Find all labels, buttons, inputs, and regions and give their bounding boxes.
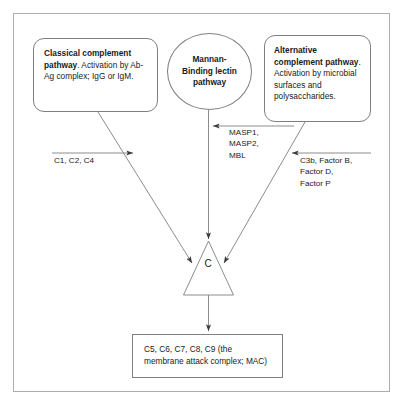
node-lectin-line1: Mannan-	[192, 54, 226, 64]
node-mac-text: C5, C6, C7, C8, C9 (the membrane attack …	[144, 344, 271, 367]
node-alternative-title: Alternative complement pathway	[274, 45, 358, 67]
edge-label-alternative-components: C3b, Factor B, Factor D, Factor P	[300, 155, 352, 189]
node-alternative-text: Alternative complement pathway. Activati…	[274, 45, 363, 103]
node-classical-text: Classical complement pathway. Activation…	[44, 48, 148, 83]
node-lectin-text: Mannan-Binding lectinpathway	[182, 54, 237, 89]
node-lectin-line2: Binding lectin	[182, 66, 237, 76]
convergence-triangle-label: C	[192, 258, 224, 269]
node-alternative-complement-pathway: Alternative complement pathway. Activati…	[264, 35, 371, 122]
diagram-canvas: Classical complement pathway. Activation…	[0, 0, 407, 412]
node-mannan-binding-lectin-pathway: Mannan-Binding lectinpathway	[167, 33, 252, 110]
edge-label-lectin-components: MASP1, MASP2, MBL	[229, 127, 259, 161]
edge-label-classical-components: C1, C2, C4	[54, 155, 94, 166]
node-classical-complement-pathway: Classical complement pathway. Activation…	[33, 38, 158, 112]
node-lectin-line3: pathway	[193, 77, 226, 87]
node-membrane-attack-complex: C5, C6, C7, C8, C9 (the membrane attack …	[132, 334, 283, 378]
